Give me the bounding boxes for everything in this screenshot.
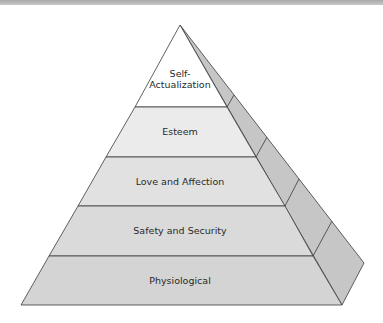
label-love-and-affection: Love and Affection [136, 176, 225, 187]
label-safety-and-security: Safety and Security [133, 225, 227, 236]
label-physiological: Physiological [149, 275, 211, 286]
label-actualization: Actualization [149, 79, 210, 90]
label-self: Self- [170, 68, 191, 79]
label-esteem: Esteem [162, 126, 198, 137]
maslow-pyramid: Self- Actualization Esteem Love and Affe… [0, 0, 383, 323]
level-self-actualization [135, 25, 227, 107]
